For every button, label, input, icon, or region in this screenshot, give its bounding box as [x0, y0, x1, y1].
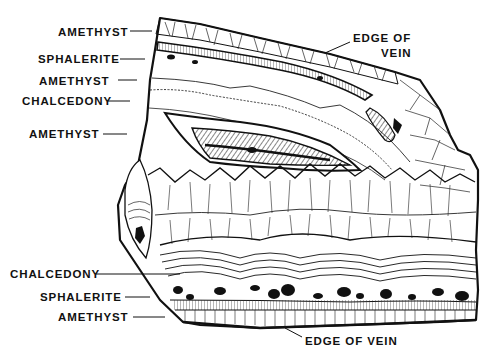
label-sphalerite-top: SPHALERITE [38, 53, 120, 65]
label-chalcedony-bottom: CHALCEDONY [10, 268, 100, 280]
label-chalcedony-top: CHALCEDONY [22, 95, 112, 107]
label-sphalerite-bottom: SPHALERITE [40, 291, 122, 303]
leader-edge-bottom [285, 328, 302, 337]
label-edge-of-vein-bottom: EDGE OF VEIN [305, 335, 398, 347]
leader-edge-top [325, 42, 350, 53]
vein-diagram: AMETHYST SPHALERITE AMETHYST CHALCEDONY … [0, 0, 496, 358]
label-amethyst-second: AMETHYST [39, 75, 109, 87]
label-amethyst-third: AMETHYST [29, 128, 99, 140]
label-amethyst-top: AMETHYST [58, 26, 128, 38]
label-edge-of-vein-top-line2: VEIN [381, 47, 411, 59]
specimen-outline [118, 18, 478, 328]
label-edge-of-vein-top-line1: EDGE OF [353, 32, 411, 44]
label-amethyst-bottom: AMETHYST [58, 311, 128, 323]
